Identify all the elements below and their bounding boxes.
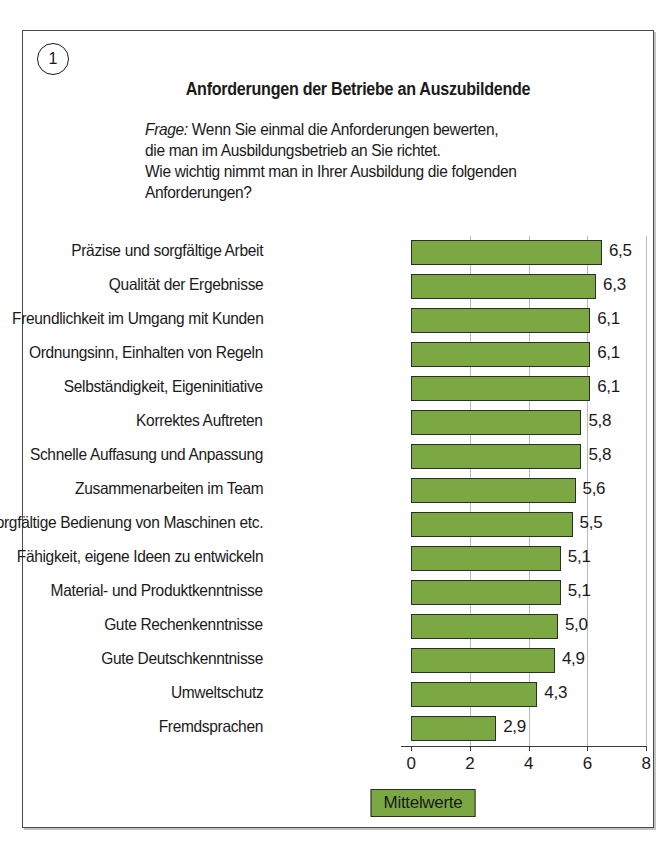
bar [411, 580, 561, 605]
x-axis-tick-label: 4 [524, 754, 533, 774]
x-axis-tick-label: 6 [583, 754, 592, 774]
figure-panel: 1 Anforderungen der Betriebe an Auszubil… [22, 30, 654, 828]
category-label: Fähigkeit, eigene Ideen zu entwickeln [16, 547, 263, 566]
legend-swatch: Mittelwerte [371, 789, 476, 817]
x-axis-tick [529, 746, 530, 751]
bar [411, 614, 558, 639]
bar-row: Ordnungsinn, Einhalten von Regeln6,1 [23, 338, 655, 372]
category-label: Fremdsprachen [159, 717, 263, 736]
category-label: Gute Deutschkenntnisse [101, 649, 263, 668]
category-label: Freundlichkeit im Umgang mit Kunden [12, 309, 263, 328]
bar-value-label: 5,8 [588, 445, 611, 465]
category-label: Sorgfältige Bedienung von Maschinen etc. [0, 513, 263, 532]
bar [411, 546, 561, 571]
legend-label: Mittelwerte [384, 793, 463, 812]
bar-value-label: 6,1 [597, 343, 620, 363]
bar-value-label: 5,5 [580, 513, 603, 533]
bar-value-label: 6,1 [597, 377, 620, 397]
bar [411, 512, 573, 537]
category-label: Material- und Produktkenntnisse [51, 581, 263, 600]
bar [411, 376, 590, 401]
bar-value-label: 5,1 [568, 547, 591, 567]
category-label: Selbständigkeit, Eigeninitiative [64, 377, 263, 396]
bar [411, 274, 596, 299]
bar [411, 478, 576, 503]
bar-row: Gute Rechenkenntnisse5,0 [23, 610, 655, 644]
bar-row: Sorgfältige Bedienung von Maschinen etc.… [23, 508, 655, 542]
category-label: Schnelle Auffasung und Anpassung [30, 445, 263, 464]
x-axis-tick-label: 0 [406, 754, 415, 774]
bar-row: Korrektes Auftreten5,8 [23, 406, 655, 440]
bar [411, 444, 581, 469]
category-label: Ordnungsinn, Einhalten von Regeln [29, 343, 263, 362]
bar [411, 342, 590, 367]
category-label: Gute Rechenkenntnisse [104, 615, 263, 634]
bar [411, 682, 537, 707]
bar-row: Selbständigkeit, Eigeninitiative6,1 [23, 372, 655, 406]
bar-value-label: 5,0 [565, 615, 588, 635]
bar [411, 410, 581, 435]
bar [411, 716, 496, 741]
bar-row: Gute Deutschkenntnisse4,9 [23, 644, 655, 678]
bar-row: Zusammenarbeiten im Team5,6 [23, 474, 655, 508]
bar [411, 648, 555, 673]
category-label: Präzise und sorgfältige Arbeit [71, 241, 263, 260]
x-axis-tick [587, 746, 588, 751]
bar-value-label: 2,9 [503, 717, 526, 737]
x-axis-tick-label: 2 [465, 754, 474, 774]
bar-value-label: 6,3 [603, 275, 626, 295]
category-label: Korrektes Auftreten [136, 411, 263, 430]
category-label: Umweltschutz [170, 683, 263, 702]
bar-row: Qualität der Ergebnisse6,3 [23, 270, 655, 304]
bar-value-label: 5,6 [583, 479, 606, 499]
bar-row: Fähigkeit, eigene Ideen zu entwickeln5,1 [23, 542, 655, 576]
x-axis-line-extension [401, 746, 411, 747]
bar-row: Freundlichkeit im Umgang mit Kunden6,1 [23, 304, 655, 338]
x-axis-tick [470, 746, 471, 751]
bar-row: Schnelle Auffasung und Anpassung5,8 [23, 440, 655, 474]
category-label: Zusammenarbeiten im Team [75, 479, 263, 498]
bar-value-label: 4,3 [544, 683, 567, 703]
bar-row: Präzise und sorgfältige Arbeit6,5 [23, 236, 655, 270]
x-axis-tick [646, 746, 647, 751]
bar-value-label: 6,1 [597, 309, 620, 329]
bar-row: Umweltschutz4,3 [23, 678, 655, 712]
bar-chart: 02468 Präzise und sorgfältige Arbeit6,5Q… [23, 31, 655, 829]
bar-value-label: 5,8 [588, 411, 611, 431]
x-axis-tick [411, 746, 412, 751]
bar-row: Fremdsprachen2,9 [23, 712, 655, 746]
category-label: Qualität der Ergebnisse [108, 275, 263, 294]
bar [411, 308, 590, 333]
bar-row: Material- und Produktkenntnisse5,1 [23, 576, 655, 610]
bar-value-label: 6,5 [609, 241, 632, 261]
bar [411, 240, 602, 265]
bar-value-label: 4,9 [562, 649, 585, 669]
x-axis-tick-label: 8 [641, 754, 650, 774]
bar-value-label: 5,1 [568, 581, 591, 601]
